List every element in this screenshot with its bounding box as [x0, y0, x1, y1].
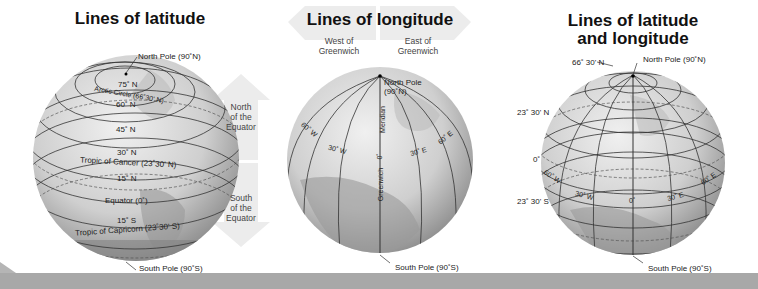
label-45n: 45˚ N: [116, 125, 136, 134]
panel-title-latitude: Lines of latitude: [60, 10, 220, 28]
label-north-pole-3: North Pole (90˚N): [643, 55, 706, 64]
label-30n: 30˚ N: [117, 148, 137, 157]
label-north-pole: North Pole (90˚N): [138, 52, 201, 61]
arrow-label-south: South of the Equator: [222, 193, 260, 223]
label-0-longitude: 0˚: [375, 153, 384, 159]
label-south-pole-3: South Pole (90˚S): [648, 264, 712, 273]
banner-tab: [0, 262, 16, 273]
label-66n: 66˚ 30' N: [572, 58, 604, 67]
label-60n: 60˚ N: [116, 100, 136, 109]
arrow-label-west: West of Greenwich: [303, 36, 375, 56]
arrow-label-north: North of the Equator: [222, 102, 260, 132]
longitude-globe: [287, 67, 473, 263]
label-north-pole-2: North Pole (90˚N): [384, 78, 422, 96]
label-equator: Equator (0˚): [105, 196, 148, 205]
bottom-banner: [0, 273, 758, 289]
label-23n: 23˚ 30' N: [517, 108, 549, 117]
panel-title-longitude: Lines of longitude: [300, 11, 460, 29]
label-south-pole-2: South Pole (90˚S): [395, 263, 459, 272]
label-23s: 23˚ 30' S: [517, 197, 549, 206]
latitude-longitude-globe: [533, 62, 733, 265]
arrow-label-east: East of Greenwich: [382, 36, 454, 56]
label-greenwich: Greenwich: [376, 168, 385, 201]
label-0-latitude: 0˚: [533, 155, 540, 164]
label-0-lon-3: 0˚: [629, 196, 635, 205]
label-south-pole: South Pole (90˚S): [139, 264, 203, 273]
panel-title-lat-long: Lines of latitude and longitude: [553, 12, 713, 48]
label-15n: 15˚ N: [117, 174, 137, 183]
label-meridian: Meridian: [378, 106, 387, 133]
